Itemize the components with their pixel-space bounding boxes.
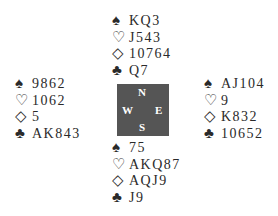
north-spades: ♠KQ3 (112, 12, 172, 29)
compass-box: N W E S (117, 84, 169, 136)
north-diamonds: ◇10764 (112, 45, 172, 62)
north-hearts: ♡J543 (112, 29, 172, 46)
club-icon: ♣ (112, 189, 129, 206)
diamond-icon: ◇ (112, 45, 129, 62)
diamond-icon: ◇ (204, 108, 221, 125)
west-diamonds: ◇5 (15, 108, 81, 125)
north-hand: ♠KQ3 ♡J543 ◇10764 ♣Q7 (112, 12, 172, 78)
spade-icon: ♠ (15, 75, 32, 92)
south-spades: ♠75 (112, 139, 181, 156)
south-clubs: ♣J9 (112, 189, 181, 206)
east-hand: ♠AJ104 ♡9 ◇K832 ♣10652 (204, 75, 265, 141)
heart-icon: ♡ (204, 92, 221, 109)
west-hearts: ♡1062 (15, 92, 81, 109)
compass-east: E (155, 104, 162, 116)
spade-icon: ♠ (112, 139, 129, 156)
club-icon: ♣ (204, 125, 221, 142)
south-hand: ♠75 ♡AKQ87 ◇AQJ9 ♣J9 (112, 139, 181, 205)
compass-north: N (138, 86, 146, 98)
east-diamonds: ◇K832 (204, 108, 265, 125)
east-hearts: ♡9 (204, 92, 265, 109)
spade-icon: ♠ (204, 75, 221, 92)
compass-south: S (139, 121, 145, 133)
east-spades: ♠AJ104 (204, 75, 265, 92)
east-clubs: ♣10652 (204, 125, 265, 142)
south-hearts: ♡AKQ87 (112, 156, 181, 173)
spade-icon: ♠ (112, 12, 129, 29)
west-spades: ♠9862 (15, 75, 81, 92)
diamond-icon: ◇ (112, 172, 129, 189)
heart-icon: ♡ (112, 29, 129, 46)
south-diamonds: ◇AQJ9 (112, 172, 181, 189)
north-clubs: ♣Q7 (112, 62, 172, 79)
west-clubs: ♣AK843 (15, 125, 81, 142)
club-icon: ♣ (15, 125, 32, 142)
diamond-icon: ◇ (15, 108, 32, 125)
west-hand: ♠9862 ♡1062 ◇5 ♣AK843 (15, 75, 81, 141)
heart-icon: ♡ (15, 92, 32, 109)
heart-icon: ♡ (112, 156, 129, 173)
compass-west: W (122, 104, 133, 116)
club-icon: ♣ (112, 62, 129, 79)
